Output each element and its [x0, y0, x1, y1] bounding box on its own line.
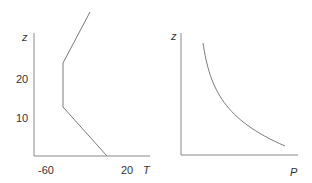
x-tick-20: 20	[121, 164, 133, 176]
left-y-axis-label: z	[21, 31, 28, 43]
temperature-chart: z 20 10 -60 20 T	[16, 12, 151, 176]
y-tick-10: 10	[16, 112, 28, 124]
pressure-chart: z P	[170, 30, 298, 178]
right-x-axis-label: P	[290, 166, 298, 178]
temperature-profile-line	[63, 12, 107, 156]
figure-canvas: z 20 10 -60 20 T z P	[0, 0, 312, 183]
pressure-profile-curve	[203, 43, 285, 146]
y-tick-20: 20	[16, 73, 28, 85]
x-tick-minus-60: -60	[38, 164, 54, 176]
right-y-axis-label: z	[170, 30, 177, 42]
left-x-axis-label: T	[143, 164, 151, 176]
